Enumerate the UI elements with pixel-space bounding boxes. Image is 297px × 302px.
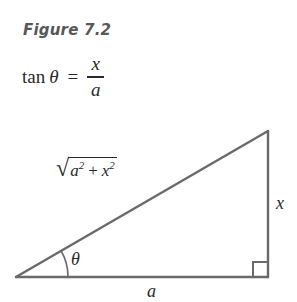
right-triangle-diagram bbox=[0, 110, 297, 302]
triangle-side-hypotenuse bbox=[16, 131, 268, 277]
radicand-term-1-base: a bbox=[70, 161, 79, 180]
formula-tangent: tan θ = x a bbox=[22, 55, 104, 100]
label-opposite-side: x bbox=[276, 193, 284, 214]
figure-page: Figure 7.2 tan θ = x a √ a2+x2 bbox=[0, 0, 297, 302]
formula-fraction: x a bbox=[87, 54, 104, 99]
fraction-bar bbox=[87, 76, 104, 78]
formula-function-name: tan bbox=[22, 66, 45, 88]
label-hypotenuse: √ a2+x2 bbox=[56, 155, 117, 179]
label-adjacent-side: a bbox=[147, 281, 156, 302]
label-angle-theta: θ bbox=[71, 249, 80, 270]
formula-denominator: a bbox=[88, 80, 104, 99]
radicand-term-2-exponent: 2 bbox=[109, 159, 115, 171]
formula-angle-symbol: θ bbox=[49, 66, 58, 88]
formula-equals-sign: = bbox=[68, 66, 79, 88]
formula-numerator: x bbox=[89, 54, 103, 73]
radicand-expression: a2+x2 bbox=[68, 157, 117, 181]
right-angle-marker-icon bbox=[253, 262, 268, 277]
angle-arc-icon bbox=[61, 251, 68, 277]
page-title: Figure 7.2 bbox=[23, 21, 111, 39]
radicand-plus-sign: + bbox=[84, 161, 102, 180]
triangle-svg bbox=[0, 110, 297, 302]
